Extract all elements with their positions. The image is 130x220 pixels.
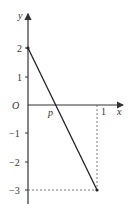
y-tick-label-1: 1 bbox=[17, 72, 22, 83]
y-axis-label: y bbox=[17, 10, 23, 21]
start-point bbox=[26, 46, 29, 49]
origin-label: O bbox=[12, 100, 19, 111]
y-tick-label-neg3: −3 bbox=[9, 185, 20, 196]
end-point bbox=[95, 188, 98, 191]
graph-segment bbox=[28, 48, 97, 190]
coordinate-graph: y x O 2 1 −1 −2 −3 1 p bbox=[0, 0, 130, 220]
x-axis-label: x bbox=[116, 106, 122, 117]
y-tick-label-neg1: −1 bbox=[9, 128, 20, 139]
y-tick-label-neg2: −2 bbox=[9, 157, 20, 168]
intercept-label-p: p bbox=[47, 107, 53, 118]
x-tick-label-1: 1 bbox=[101, 106, 106, 117]
y-tick-label-2: 2 bbox=[17, 43, 22, 54]
